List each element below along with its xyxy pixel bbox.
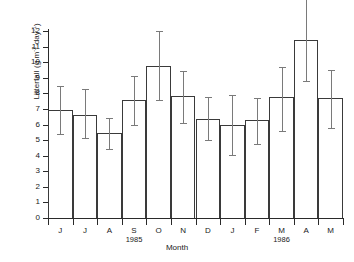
x-axis-tick <box>48 219 49 225</box>
error-bar-cap-upper <box>180 71 187 72</box>
y-axis-tick-label-wrap: 4 <box>8 156 40 157</box>
x-axis-title: Month <box>0 243 354 252</box>
error-bar-stem <box>306 0 307 81</box>
x-axis-tick <box>318 219 319 225</box>
error-bar-cap-lower <box>279 131 286 132</box>
y-axis-tick <box>43 62 49 63</box>
error-bar-cap-upper <box>229 95 236 96</box>
error-bar-stem <box>85 89 86 138</box>
y-axis-tick-label: 0 <box>10 214 40 222</box>
y-axis-tick-label-wrap: 9 <box>8 78 40 79</box>
error-bar-cap-lower <box>82 138 89 139</box>
error-bar-stem <box>183 71 184 123</box>
error-bar-cap-lower <box>205 140 212 141</box>
y-axis-tick-label-wrap: 12 <box>8 31 40 32</box>
error-bar-cap-lower <box>254 144 261 145</box>
error-bar-cap-lower <box>131 125 138 126</box>
y-axis-tick <box>43 78 49 79</box>
y-axis-tick-label-wrap: 0 <box>8 218 40 219</box>
x-axis-tick <box>122 219 123 225</box>
error-bar-stem <box>208 97 209 141</box>
y-axis-tick-label: 2 <box>10 183 40 191</box>
error-bar-cap-upper <box>328 70 335 71</box>
x-axis-tick <box>196 219 197 225</box>
y-axis-tick <box>43 31 49 32</box>
x-axis-tick-label: A <box>97 226 121 235</box>
y-axis-tick-label-wrap: 11 <box>8 47 40 48</box>
x-axis-tick-label: M <box>319 226 343 235</box>
y-axis-tick-label-wrap: 1 <box>8 202 40 203</box>
error-bar-stem <box>159 31 160 100</box>
error-bar-cap-lower <box>303 81 310 82</box>
y-axis-tick-label: 5 <box>10 136 40 144</box>
y-axis-tick-label: 9 <box>10 74 40 82</box>
x-axis-tick-label: M <box>270 226 294 235</box>
error-bar-cap-lower <box>156 100 163 101</box>
error-bar-stem <box>257 98 258 144</box>
x-axis-tick <box>245 219 246 225</box>
y-axis-tick <box>43 93 49 94</box>
error-bar-cap-upper <box>279 67 286 68</box>
error-bar-cap-lower <box>106 149 113 150</box>
x-axis-tick <box>269 219 270 225</box>
error-bar-stem <box>331 70 332 128</box>
y-axis-tick-label-wrap: 2 <box>8 187 40 188</box>
y-axis-tick-label: 11 <box>10 43 40 51</box>
y-axis-tick-label: 4 <box>10 152 40 160</box>
error-bar-stem <box>134 76 135 125</box>
error-bar-stem <box>60 86 61 133</box>
y-axis-tick-label: 6 <box>10 121 40 129</box>
error-bar-cap-upper <box>156 31 163 32</box>
y-axis-tick-label: 7 <box>10 105 40 113</box>
y-axis-tick <box>43 47 49 48</box>
x-axis-tick-label: S <box>122 226 146 235</box>
x-axis-tick-label: A <box>294 226 318 235</box>
x-axis-tick-label: D <box>196 226 220 235</box>
error-bar-cap-upper <box>57 86 64 87</box>
y-axis-tick-label-wrap: 6 <box>8 125 40 126</box>
x-axis-tick-label: O <box>147 226 171 235</box>
y-axis-tick-label: 12 <box>10 27 40 35</box>
y-axis-tick-label-wrap: 7 <box>8 109 40 110</box>
error-bar-cap-upper <box>82 89 89 90</box>
error-bar-stem <box>109 118 110 149</box>
error-bar-cap-upper <box>106 118 113 119</box>
x-axis-tick-label: N <box>171 226 195 235</box>
x-axis-tick-label: J <box>48 226 72 235</box>
x-axis-tick <box>146 219 147 225</box>
y-axis-tick-label: 1 <box>10 198 40 206</box>
x-axis-tick <box>343 219 344 225</box>
x-axis-tick <box>171 219 172 225</box>
error-bar-cap-lower <box>328 128 335 129</box>
y-axis-tick-label-wrap: 5 <box>8 140 40 141</box>
y-axis-tick-label-wrap: 10 <box>8 62 40 63</box>
x-axis-tick <box>97 219 98 225</box>
error-bar-cap-lower <box>229 155 236 156</box>
x-axis-tick-label: J <box>73 226 97 235</box>
y-axis-tick-label-wrap: 8 <box>8 93 40 94</box>
x-axis-tick-label: J <box>220 226 244 235</box>
x-axis-tick <box>294 219 295 225</box>
y-axis-tick-label: 10 <box>10 58 40 66</box>
error-bar-stem <box>232 95 233 155</box>
y-axis-tick-label-wrap: 3 <box>8 171 40 172</box>
litterfall-bar-chart: Litterfall (g m-2 day-1) 012345678910111… <box>0 0 354 262</box>
y-axis-tick-label: 8 <box>10 89 40 97</box>
error-bar-cap-lower <box>180 123 187 124</box>
error-bar-cap-lower <box>57 134 64 135</box>
error-bar-stem <box>282 67 283 131</box>
y-axis-tick-label: 3 <box>10 167 40 175</box>
error-bar-cap-upper <box>131 76 138 77</box>
x-axis-tick-label: F <box>245 226 269 235</box>
error-bar-cap-upper <box>205 97 212 98</box>
x-axis-tick <box>220 219 221 225</box>
x-axis-tick <box>73 219 74 225</box>
error-bar-cap-upper <box>254 98 261 99</box>
